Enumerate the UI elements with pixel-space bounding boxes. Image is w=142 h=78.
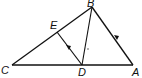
label-b: B	[87, 0, 94, 9]
label-e: E	[50, 19, 58, 31]
segment-cb	[12, 7, 92, 65]
triangle-diagram: B E C D A	[0, 0, 142, 78]
label-a: A	[131, 66, 139, 78]
label-d: D	[78, 66, 86, 78]
angle-dot	[87, 48, 88, 49]
segment-bd	[82, 7, 92, 65]
segment-ba	[92, 7, 133, 65]
label-c: C	[1, 64, 9, 76]
